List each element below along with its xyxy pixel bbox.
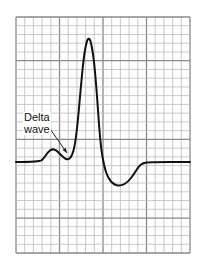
grid-paper (16, 17, 190, 253)
ecg-diagram (0, 0, 198, 271)
delta-wave-label: Delta wave (23, 112, 51, 135)
label-line-2: wave (24, 124, 50, 135)
arrowhead-icon (62, 148, 67, 153)
label-line-1: Delta (24, 112, 50, 123)
